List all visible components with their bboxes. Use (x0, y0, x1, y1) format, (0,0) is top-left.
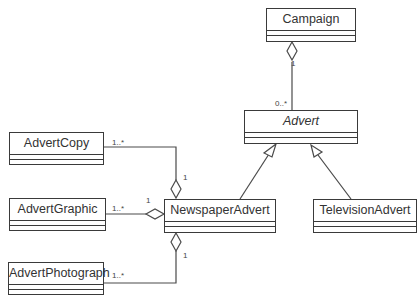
class-television-advert[interactable]: TelevisionAdvert (313, 199, 417, 233)
photo-aggregation-diamond-icon (171, 233, 181, 251)
campaign-aggregation-diamond-icon (287, 42, 297, 60)
operations-compartment (10, 160, 103, 166)
operations-compartment (165, 227, 275, 233)
class-name: TelevisionAdvert (314, 200, 416, 222)
newspaper-generalization-arrow-icon (264, 144, 276, 157)
operations-compartment (10, 226, 105, 232)
newspaper-generalization-line (240, 154, 269, 199)
television-generalization-arrow-icon (311, 145, 322, 157)
class-name: NewspaperAdvert (165, 200, 275, 222)
class-name: Campaign (267, 9, 355, 31)
operations-compartment (314, 227, 416, 233)
class-advert-photograph[interactable]: AdvertPhotograph (8, 262, 104, 295)
television-generalization-line (318, 155, 351, 199)
multiplicity-label: 0..* (275, 99, 287, 108)
class-newspaper-advert[interactable]: NewspaperAdvert (164, 199, 276, 233)
multiplicity-label: 1..* (112, 138, 124, 147)
operations-compartment (245, 138, 357, 144)
multiplicity-label: 1 (183, 173, 187, 182)
graphic-aggregation-diamond-icon (146, 209, 164, 219)
class-name: AdvertGraphic (10, 199, 105, 221)
class-advert[interactable]: Advert (244, 110, 358, 144)
multiplicity-label: 1 (291, 59, 295, 68)
multiplicity-label: 1..* (112, 204, 124, 213)
class-name: Advert (245, 111, 357, 133)
class-advert-graphic[interactable]: AdvertGraphic (9, 198, 106, 231)
class-name: AdvertCopy (10, 133, 103, 155)
class-campaign[interactable]: Campaign (266, 8, 356, 42)
multiplicity-label: 1..* (112, 271, 124, 280)
operations-compartment (267, 36, 355, 42)
multiplicity-label: 1 (183, 251, 187, 260)
operations-compartment (9, 290, 103, 296)
copy-newspaper-line (104, 147, 176, 180)
multiplicity-label: 1 (146, 196, 150, 205)
copy-aggregation-diamond-icon (171, 180, 181, 198)
class-name: AdvertPhotograph (9, 263, 103, 285)
class-advert-copy[interactable]: AdvertCopy (9, 132, 104, 165)
